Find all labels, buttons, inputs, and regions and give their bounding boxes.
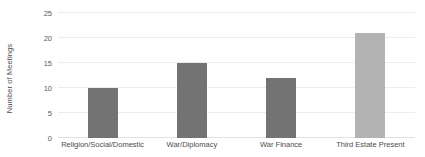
x-tick-label: War/Diplomacy [167, 140, 218, 149]
y-axis-title: Number of Meetings [0, 0, 18, 157]
bars-group [58, 13, 415, 138]
bar[interactable] [177, 63, 207, 138]
x-tick-label: Third Estate Present [336, 140, 404, 149]
bar-slot [237, 13, 326, 138]
x-axis-tick-labels: Religion/Social/DomesticWar/DiplomacyWar… [58, 140, 415, 157]
bar[interactable] [88, 88, 118, 138]
bar-slot [58, 13, 147, 138]
x-tick-label: War Finance [260, 140, 302, 149]
bar[interactable] [355, 33, 385, 138]
y-tick-label: 5 [48, 109, 52, 118]
y-tick-label: 0 [48, 134, 52, 143]
y-axis-tick-labels: 0510152025 [18, 0, 56, 157]
y-tick-label: 10 [44, 84, 52, 93]
y-tick-label: 20 [44, 34, 52, 43]
bar-chart-figure: Number of Meetings 0510152025 Religion/S… [0, 0, 425, 157]
y-tick-label: 15 [44, 59, 52, 68]
bar[interactable] [266, 78, 296, 138]
plot-area [58, 13, 415, 138]
bar-slot [147, 13, 236, 138]
bar-slot [326, 13, 415, 138]
x-tick-label: Religion/Social/Domestic [61, 140, 144, 149]
y-tick-label: 25 [44, 9, 52, 18]
